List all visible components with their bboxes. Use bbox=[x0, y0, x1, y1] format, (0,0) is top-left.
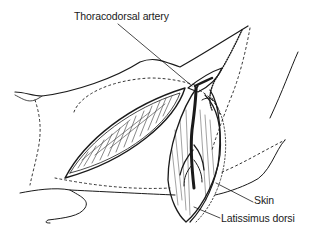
label-skin: Skin bbox=[254, 194, 274, 206]
dashed-outline-flap-area bbox=[74, 78, 195, 112]
leader-line-artery bbox=[118, 24, 192, 86]
dashed-outline-right bbox=[212, 28, 250, 150]
label-thoracodorsal-artery: Thoracodorsal artery bbox=[74, 10, 169, 22]
body-contour-right bbox=[270, 52, 298, 118]
label-latissimus-dorsi: Latissimus dorsi bbox=[221, 212, 295, 224]
thoracodorsal-vessel bbox=[191, 88, 196, 188]
illustration-canvas: Thoracodorsal artery Skin Latissimus dor… bbox=[0, 0, 310, 250]
dashed-outline-left bbox=[30, 100, 40, 185]
arm-contour bbox=[20, 189, 86, 223]
leader-line-skin bbox=[216, 183, 253, 202]
donor-defect bbox=[65, 88, 185, 178]
